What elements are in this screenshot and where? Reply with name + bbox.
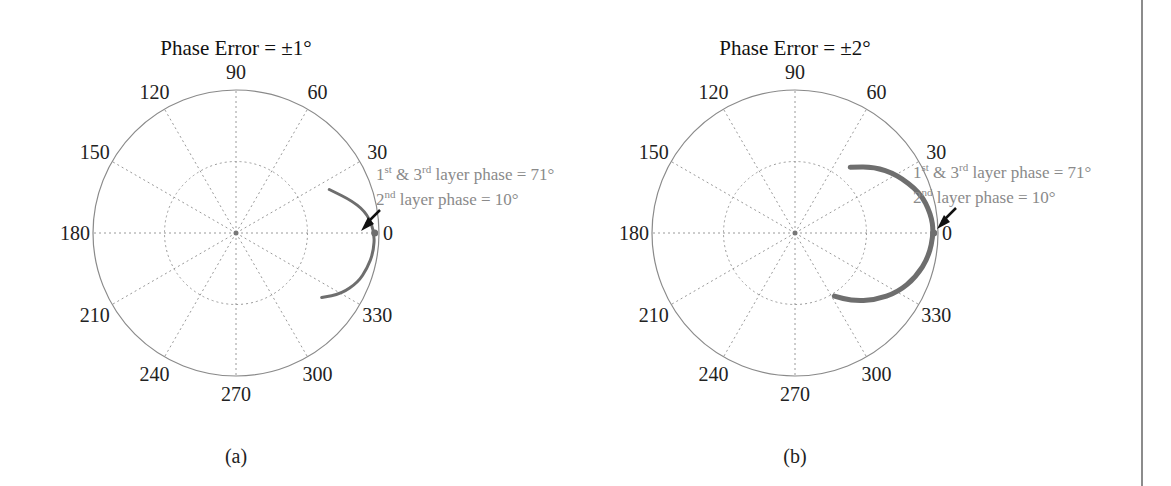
angle-label-90: 90 (785, 61, 805, 83)
angle-label-210: 210 (80, 304, 110, 326)
angle-label-240: 240 (699, 363, 729, 385)
panel-caption: (a) (225, 445, 247, 468)
angle-label-120: 120 (140, 81, 170, 103)
angle-label-180: 180 (619, 222, 649, 244)
angle-label-330: 330 (921, 304, 951, 326)
angle-label-210: 210 (639, 304, 669, 326)
panel-caption: (b) (783, 445, 806, 468)
angle-label-300: 300 (303, 363, 333, 385)
data-trace (322, 190, 379, 298)
annotation-line-1: 1st & 3rd layer phase = 71° (376, 163, 554, 184)
angle-label-120: 120 (699, 81, 729, 103)
angle-label-0: 0 (383, 222, 393, 244)
annotation-line-2: 2nd layer phase = 10° (913, 186, 1056, 207)
polar-grid (93, 90, 379, 376)
angle-label-300: 300 (862, 363, 892, 385)
chart-title: Phase Error = ±1° (160, 36, 311, 60)
angle-label-180: 180 (60, 222, 90, 244)
polar-chart-a: Phase Error = ±1° 0306090120150180210240… (60, 36, 554, 468)
angle-label-330: 330 (362, 304, 392, 326)
angle-label-150: 150 (80, 141, 110, 163)
angle-label-270: 270 (221, 383, 251, 405)
angle-label-30: 30 (926, 141, 946, 163)
annotation-line-1: 1st & 3rd layer phase = 71° (913, 161, 1091, 182)
annotation-line-2: 2nd layer phase = 10° (376, 188, 519, 209)
polar-chart-b: Phase Error = ±2° 0306090120150180210240… (619, 36, 1091, 468)
angle-label-30: 30 (367, 141, 387, 163)
angle-label-60: 60 (308, 81, 328, 103)
angle-label-240: 240 (140, 363, 170, 385)
angle-label-60: 60 (867, 81, 887, 103)
polar-figure: Phase Error = ±1° 0306090120150180210240… (0, 0, 1171, 486)
angle-label-90: 90 (226, 61, 246, 83)
angle-label-270: 270 (780, 383, 810, 405)
polar-grid (652, 90, 938, 376)
chart-title: Phase Error = ±2° (719, 36, 870, 60)
page-border (1141, 0, 1143, 486)
angle-label-150: 150 (639, 141, 669, 163)
